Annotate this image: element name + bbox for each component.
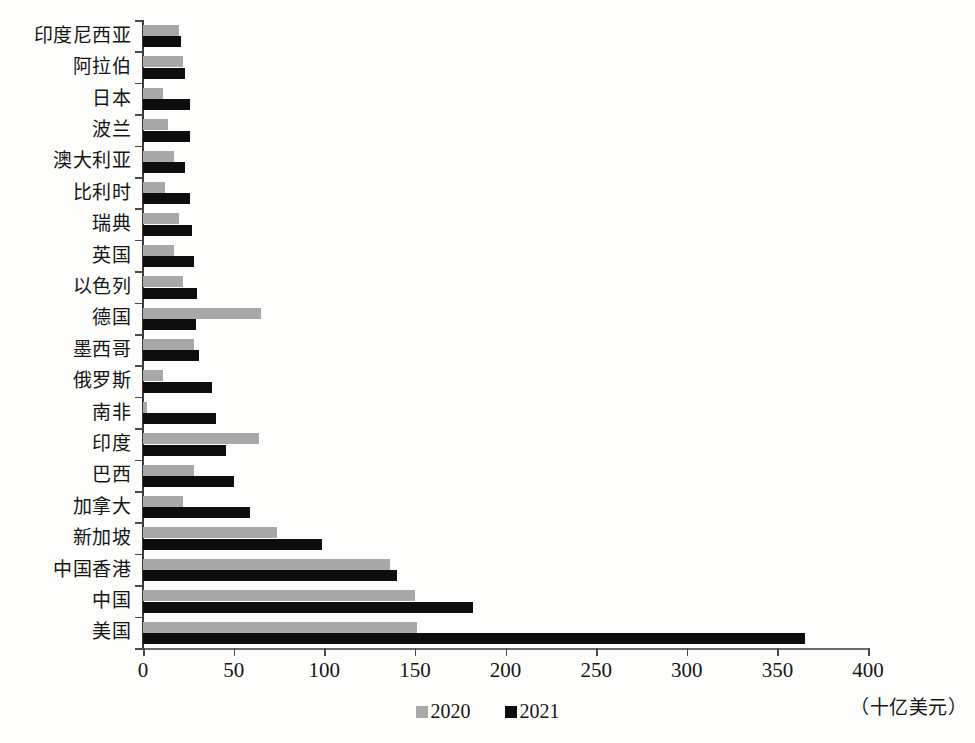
x-axis-tick-label: 0 [108,658,178,682]
bar-group [143,617,873,648]
bar-2021 [143,288,197,299]
bar-2020 [143,308,261,319]
bar-2021 [143,225,192,236]
y-axis-label: 比利时 [11,183,131,202]
bar-group [143,271,873,302]
plot-area [143,20,873,648]
x-axis-tick-label: 150 [380,658,450,682]
bar-2021 [143,319,196,330]
y-axis-label: 印度尼西亚 [11,26,131,45]
black-square-swatch [505,706,517,718]
bar-group [143,428,873,459]
x-axis-tick [415,648,417,656]
bar-2021 [143,36,181,47]
y-axis-label: 以色列 [11,277,131,296]
bar-2021 [143,633,805,644]
y-axis-label: 英国 [11,246,131,265]
x-axis-tick-label: 200 [471,658,541,682]
y-axis-tick [135,208,143,210]
bar-group [143,303,873,334]
bar-2021 [143,162,185,173]
x-axis-tick [596,648,598,656]
y-axis-label: 加拿大 [11,497,131,516]
x-axis-tick [687,648,689,656]
x-axis-tick-label: 300 [652,658,722,682]
bar-2020 [143,370,163,381]
bar-group [143,554,873,585]
bar-2020 [143,213,179,224]
y-axis-tick [135,114,143,116]
y-axis-tick [135,365,143,367]
y-axis-tick [135,83,143,85]
y-axis-label: 俄罗斯 [11,371,131,390]
x-axis-tick-label: 250 [561,658,631,682]
bar-group [143,208,873,239]
bar-2020 [143,56,183,67]
x-axis-tick [777,648,779,656]
bar-2020 [143,559,390,570]
bar-group [143,585,873,616]
y-axis-tick [135,51,143,53]
y-axis-tick [135,271,143,273]
bar-2021 [143,382,212,393]
bar-2021 [143,507,250,518]
bar-2021 [143,68,185,79]
bar-2020 [143,402,147,413]
bar-2020 [143,88,163,99]
y-axis-label: 瑞典 [11,214,131,233]
y-axis-label: 波兰 [11,120,131,139]
bar-group [143,240,873,271]
y-axis-label: 南非 [11,403,131,422]
bar-2020 [143,119,168,130]
x-axis-tick [324,648,326,656]
bar-2021 [143,99,190,110]
legend-item-2021[interactable]: 2021 [505,700,560,723]
bar-2020 [143,276,183,287]
y-axis-label: 澳大利亚 [11,151,131,170]
bar-2021 [143,256,194,267]
y-axis-tick [135,491,143,493]
y-axis-label: 巴西 [11,465,131,484]
y-axis-label: 中国香港 [11,560,131,579]
bar-2021 [143,131,190,142]
y-axis-label: 中国 [11,591,131,610]
bar-2020 [143,527,277,538]
y-axis-tick [135,177,143,179]
legend-label: 2021 [520,700,560,723]
y-axis-tick [135,397,143,399]
x-axis-tick [234,648,236,656]
bar-group [143,20,873,51]
y-axis-tick [135,146,143,148]
bar-2020 [143,465,194,476]
bar-2020 [143,245,174,256]
bar-2021 [143,570,397,581]
bar-2020 [143,25,179,36]
y-axis-tick [135,554,143,556]
y-axis-label: 德国 [11,308,131,327]
bar-2020 [143,151,174,162]
bar-2021 [143,350,199,361]
bar-group [143,460,873,491]
y-axis-tick [135,585,143,587]
bar-group [143,522,873,553]
y-axis-label: 日本 [11,89,131,108]
x-axis-tick-label: 400 [833,658,903,682]
bar-group [143,83,873,114]
bar-2021 [143,445,226,456]
bar-group [143,146,873,177]
y-axis-tick [135,648,143,650]
y-axis-tick [135,240,143,242]
y-axis-label: 新加坡 [11,528,131,547]
y-axis-tick [135,460,143,462]
legend-item-2020[interactable]: 2020 [416,700,471,723]
bar-2021 [143,476,234,487]
x-axis-tick-label: 50 [199,658,269,682]
bar-group [143,365,873,396]
bar-2021 [143,539,322,550]
y-axis-tick [135,522,143,524]
bar-group [143,177,873,208]
x-axis-tick [868,648,870,656]
bar-2020 [143,339,194,350]
bar-2020 [143,622,417,633]
horizontal-bar-chart: 印度尼西亚阿拉伯日本波兰澳大利亚比利时瑞典英国以色列德国墨西哥俄罗斯南非印度巴西… [0,0,975,743]
